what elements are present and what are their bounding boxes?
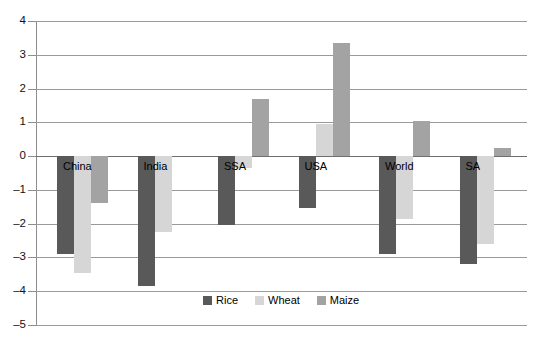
- legend-item-wheat[interactable]: Wheat: [255, 295, 300, 306]
- gridline-2: [36, 89, 527, 90]
- gridline--4: [36, 291, 527, 292]
- category-label-usa: USA: [305, 161, 328, 172]
- legend-item-maize[interactable]: Maize: [317, 295, 359, 306]
- bar-rice-sa: [460, 156, 477, 264]
- gridline-3: [36, 55, 527, 56]
- y-tick--1: [28, 190, 36, 191]
- legend-swatch-wheat-icon: [255, 296, 264, 305]
- category-label-world: World: [385, 161, 414, 172]
- y-tick-label: 2: [0, 83, 26, 95]
- y-tick-label: 4: [0, 15, 26, 27]
- y-tick-label: –1: [0, 184, 26, 196]
- y-tick-1: [28, 122, 36, 123]
- y-tick-label: –3: [0, 251, 26, 263]
- y-tick-label: 3: [0, 49, 26, 61]
- bar-maize-ssa: [252, 99, 269, 156]
- y-tick-3: [28, 55, 36, 56]
- gridline-1: [36, 122, 527, 123]
- legend-label: Wheat: [268, 295, 300, 306]
- bar-maize-china: [91, 156, 108, 203]
- legend-swatch-rice-icon: [203, 296, 212, 305]
- category-label-india: India: [144, 161, 168, 172]
- y-tick-label: 1: [0, 116, 26, 128]
- category-label-ssa: SSA: [224, 161, 246, 172]
- legend-label: Rice: [216, 295, 238, 306]
- bar-chart: 43210–1–2–3–4–5 ChinaIndiaSSAUSAWorldSA …: [0, 0, 542, 344]
- bar-rice-india: [138, 156, 155, 286]
- gridline--2: [36, 224, 527, 225]
- y-tick--5: [28, 325, 36, 326]
- legend-swatch-maize-icon: [317, 296, 326, 305]
- gridline-0: [36, 156, 527, 157]
- bar-wheat-usa: [316, 124, 333, 156]
- category-label-china: China: [63, 161, 92, 172]
- y-tick-label: –5: [0, 319, 26, 331]
- y-tick--2: [28, 224, 36, 225]
- y-tick-2: [28, 89, 36, 90]
- gridline--3: [36, 257, 527, 258]
- bar-maize-sa: [494, 148, 511, 156]
- bar-maize-usa: [333, 43, 350, 156]
- gridline--5: [36, 325, 527, 326]
- bar-maize-world: [413, 121, 430, 156]
- y-tick-label: –2: [0, 218, 26, 230]
- legend-item-rice[interactable]: Rice: [203, 295, 238, 306]
- y-tick-label: –4: [0, 285, 26, 297]
- y-tick--3: [28, 257, 36, 258]
- chart-legend: RiceWheatMaize: [203, 295, 359, 306]
- y-tick--4: [28, 291, 36, 292]
- legend-label: Maize: [330, 295, 359, 306]
- plot-area: ChinaIndiaSSAUSAWorldSA: [36, 21, 527, 325]
- gridline--1: [36, 190, 527, 191]
- y-tick-4: [28, 21, 36, 22]
- category-label-sa: SA: [466, 161, 481, 172]
- y-tick-label: 0: [0, 150, 26, 162]
- bar-wheat-china: [74, 156, 91, 273]
- y-tick-0: [28, 156, 36, 157]
- gridline-4: [36, 21, 527, 22]
